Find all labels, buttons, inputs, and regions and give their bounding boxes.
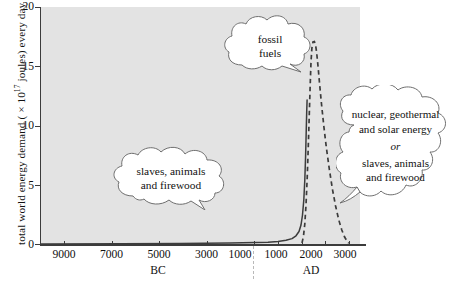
future-line-2: and solar energy (359, 123, 432, 135)
energy-demand-chart: total world energy demand ( × 1017 joule… (0, 0, 455, 283)
x-tick-5000bc (159, 241, 160, 246)
future-line-1: nuclear, geothermal (352, 108, 440, 120)
x-tick-1000ad (278, 241, 279, 246)
y-tick-0 (35, 244, 40, 245)
y-tick-label-0: 0 (0, 239, 34, 251)
x-tick-4000ad (349, 241, 350, 246)
y-tick-10 (35, 126, 40, 127)
y-tick-label-15: 15 (0, 61, 34, 73)
y-axis-title-exponent: 17 (13, 84, 22, 92)
y-tick-label-10: 10 (0, 120, 34, 132)
y-tick-15 (35, 66, 40, 67)
y-tick-20 (35, 7, 40, 8)
y-tick-5 (35, 185, 40, 186)
x-tick-label-3000ad: 3000 (317, 249, 373, 261)
future-or: or (352, 139, 440, 154)
x-axis-line (40, 244, 366, 246)
era-label-bc: BC (123, 264, 193, 277)
x-tick-7000bc (112, 241, 113, 246)
y-tick-label-5: 5 (0, 180, 34, 192)
annotation-future-energy: nuclear, geothermal and solar energy or … (336, 85, 455, 207)
y-tick-label-20: 20 (0, 1, 34, 13)
y-axis-title-pre: total world energy demand ( × 10 (15, 92, 27, 245)
annotation-slaves-animals-firewood: slaves, animals and firewood (111, 146, 231, 210)
x-tick-2000ad (302, 241, 303, 246)
fossil-line-2: fuels (259, 47, 281, 59)
slaves-line-2: and firewood (141, 179, 201, 191)
fossil-line-1: fossil (258, 33, 283, 45)
x-tick-9000bc (64, 241, 65, 246)
annotation-fossil-fuels-text: fossil fuels (254, 32, 287, 60)
slaves-line-1: slaves, animals (137, 165, 206, 177)
future-line-4: and firewood (366, 171, 425, 183)
x-tick-3000bc (207, 241, 208, 246)
future-line-3: slaves, animals (362, 157, 429, 169)
annotation-slaves-text: slaves, animals and firewood (133, 164, 210, 192)
x-tick-1000bc (254, 241, 255, 246)
era-label-ad: AD (276, 264, 346, 277)
annotation-fossil-fuels: fossil fuels (222, 13, 318, 79)
bc-ad-divider (253, 246, 254, 279)
annotation-future-energy-text: nuclear, geothermal and solar energy or … (348, 107, 444, 185)
x-tick-3000ad (325, 241, 326, 246)
